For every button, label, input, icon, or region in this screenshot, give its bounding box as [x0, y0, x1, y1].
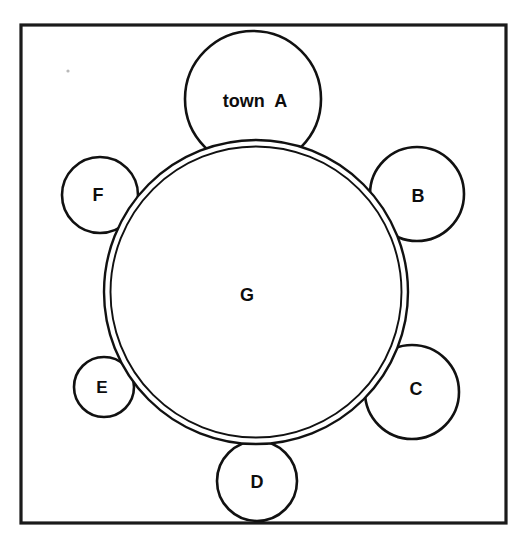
region-label-a: town A [223, 91, 287, 111]
scan-speck [66, 69, 69, 72]
region-label-e: E [96, 378, 107, 397]
town-ring-diagram: town ABCDEFG [0, 0, 524, 547]
region-label-f: F [93, 185, 104, 205]
central-region-g [104, 140, 408, 444]
region-label-b: B [412, 186, 425, 206]
diagram-canvas: town ABCDEFG [0, 0, 524, 547]
region-label-c: C [410, 379, 423, 399]
central-circle-outer-edge [104, 140, 408, 444]
region-label-d: D [251, 472, 264, 492]
region-label-g: G [240, 285, 254, 305]
central-circle-inner-edge [111, 147, 402, 438]
